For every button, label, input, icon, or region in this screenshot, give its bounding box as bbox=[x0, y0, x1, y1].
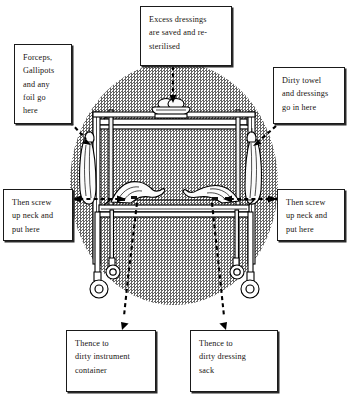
callout-line: sack bbox=[199, 364, 270, 377]
connector-screw-right bbox=[223, 195, 277, 202]
callout-line: container bbox=[75, 364, 148, 377]
callout-line: here bbox=[23, 104, 64, 117]
callout-line: Gallipots bbox=[23, 64, 64, 77]
callout-line: Excess dressings bbox=[149, 13, 224, 26]
connector-screw-left bbox=[72, 195, 126, 202]
connector-dirty-towel bbox=[253, 126, 276, 146]
callout-screw-neck-right: Then screw up neck and put here bbox=[277, 189, 345, 241]
callout-line: and dressings bbox=[282, 87, 337, 100]
callout-line: Dirty towel bbox=[282, 74, 337, 87]
callout-line: Then screw bbox=[286, 196, 337, 209]
callout-screw-neck-left: Then screw up neck and put here bbox=[3, 189, 73, 241]
callout-line: go in here bbox=[282, 101, 337, 114]
callout-line: and any bbox=[23, 78, 64, 91]
callout-line: foil go bbox=[23, 91, 64, 104]
callout-thence-dressing-sack: Thence to dirty dressing sack bbox=[190, 330, 278, 392]
connector-thence-left bbox=[121, 203, 137, 330]
callout-excess-dressings: Excess dressings are saved and re- steri… bbox=[140, 6, 232, 66]
callout-line: dirty dressing bbox=[199, 350, 270, 363]
callout-line: up neck and bbox=[286, 209, 337, 222]
callout-line: Forceps, bbox=[23, 51, 64, 64]
callout-line: put here bbox=[286, 223, 337, 236]
figure-canvas: Excess dressings are saved and re- steri… bbox=[0, 0, 348, 402]
connector-excess-dressings bbox=[170, 66, 177, 103]
callout-line: Thence to bbox=[75, 337, 148, 350]
callout-dirty-towel: Dirty towel and dressings go in here bbox=[273, 67, 345, 124]
connector-thence-right bbox=[212, 203, 227, 330]
callout-line: Thence to bbox=[199, 337, 270, 350]
callout-line: are saved and re- bbox=[149, 26, 224, 39]
callout-line: up neck and bbox=[12, 209, 65, 222]
callout-line: dirty instrument bbox=[75, 350, 148, 363]
callout-forceps-gallipots: Forceps, Gallipots and any foil go here bbox=[14, 44, 72, 124]
callout-line: sterilised bbox=[149, 40, 224, 53]
callout-line: Then screw bbox=[12, 196, 65, 209]
callout-thence-instrument-container: Thence to dirty instrument container bbox=[66, 330, 156, 392]
connector-forceps bbox=[70, 122, 91, 145]
callout-line: put here bbox=[12, 223, 65, 236]
